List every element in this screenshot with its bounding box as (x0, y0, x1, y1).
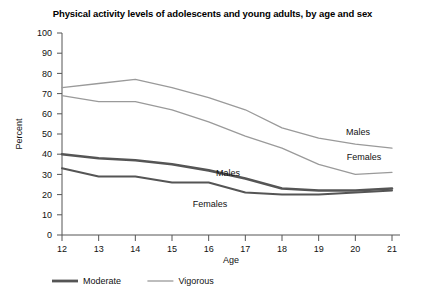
series-annotation: Females (347, 152, 382, 162)
x-tick-label: 13 (94, 244, 104, 254)
series-line (62, 79, 392, 148)
legend-label: Moderate (83, 276, 121, 286)
y-axis-title: Percent (14, 118, 24, 150)
x-tick-label: 15 (167, 244, 177, 254)
y-axis-ticks: 0102030405060708090100 (37, 28, 62, 240)
x-axis-title: Age (223, 255, 239, 265)
series-annotation: Males (216, 168, 241, 178)
series-annotations: MalesFemalesMalesFemales (193, 127, 382, 209)
chart-figure: Physical activity levels of adolescents … (0, 0, 425, 293)
x-tick-label: 16 (204, 244, 214, 254)
x-tick-label: 21 (387, 244, 397, 254)
x-tick-label: 17 (240, 244, 250, 254)
series-annotation: Males (346, 127, 371, 137)
legend-label: Vigorous (178, 276, 214, 286)
x-tick-label: 20 (350, 244, 360, 254)
y-tick-label: 30 (42, 170, 52, 180)
chart-legend: ModerateVigorous (52, 276, 214, 286)
y-tick-label: 100 (37, 28, 52, 38)
chart-plot-area: 0102030405060708090100 12131415161718192… (0, 0, 425, 293)
y-tick-label: 60 (42, 109, 52, 119)
x-axis-ticks: 12131415161718192021 (57, 235, 397, 254)
y-tick-label: 50 (42, 129, 52, 139)
x-tick-label: 18 (277, 244, 287, 254)
y-tick-label: 40 (42, 149, 52, 159)
series-line (62, 96, 392, 175)
x-tick-label: 14 (130, 244, 140, 254)
y-tick-label: 90 (42, 48, 52, 58)
y-tick-label: 0 (47, 230, 52, 240)
series-annotation: Females (193, 199, 228, 209)
y-tick-label: 20 (42, 190, 52, 200)
x-tick-label: 12 (57, 244, 67, 254)
x-tick-label: 19 (314, 244, 324, 254)
y-tick-label: 10 (42, 210, 52, 220)
y-tick-label: 80 (42, 69, 52, 79)
y-tick-label: 70 (42, 89, 52, 99)
